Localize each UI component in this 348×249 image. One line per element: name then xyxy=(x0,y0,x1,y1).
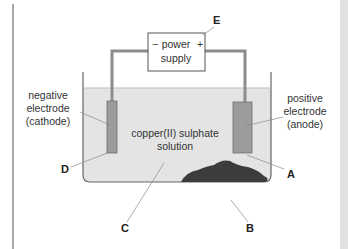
power-supply: − + power supply xyxy=(148,33,205,71)
solution-label-line2: solution xyxy=(157,140,193,152)
label-E-leader xyxy=(203,27,214,35)
negative-electrode-label-line2: electrode xyxy=(26,102,69,114)
label-A: A xyxy=(287,168,295,180)
positive-electrode xyxy=(233,102,252,153)
positive-terminal-sign: + xyxy=(197,38,203,50)
label-E: E xyxy=(213,14,220,26)
label-D: D xyxy=(61,163,69,175)
label-B-leader xyxy=(231,200,248,222)
label-B: B xyxy=(246,222,254,234)
negative-electrode-label-line3: (cathode) xyxy=(26,115,70,127)
electrolysis-diagram: − + power supply copper(II) sulphate sol… xyxy=(0,0,348,249)
label-C: C xyxy=(121,222,129,234)
negative-electrode-label-line1: negative xyxy=(28,89,68,101)
positive-electrode-label-line3: (anode) xyxy=(287,118,323,130)
solution-label-line1: copper(II) sulphate xyxy=(131,127,219,139)
negative-electrode xyxy=(107,101,117,153)
negative-terminal-sign: − xyxy=(152,38,158,50)
positive-electrode-label-line2: electrode xyxy=(283,105,326,117)
power-supply-label-line1: power xyxy=(162,38,191,50)
power-supply-label-line2: supply xyxy=(161,52,192,64)
positive-electrode-label-line1: positive xyxy=(287,92,323,104)
